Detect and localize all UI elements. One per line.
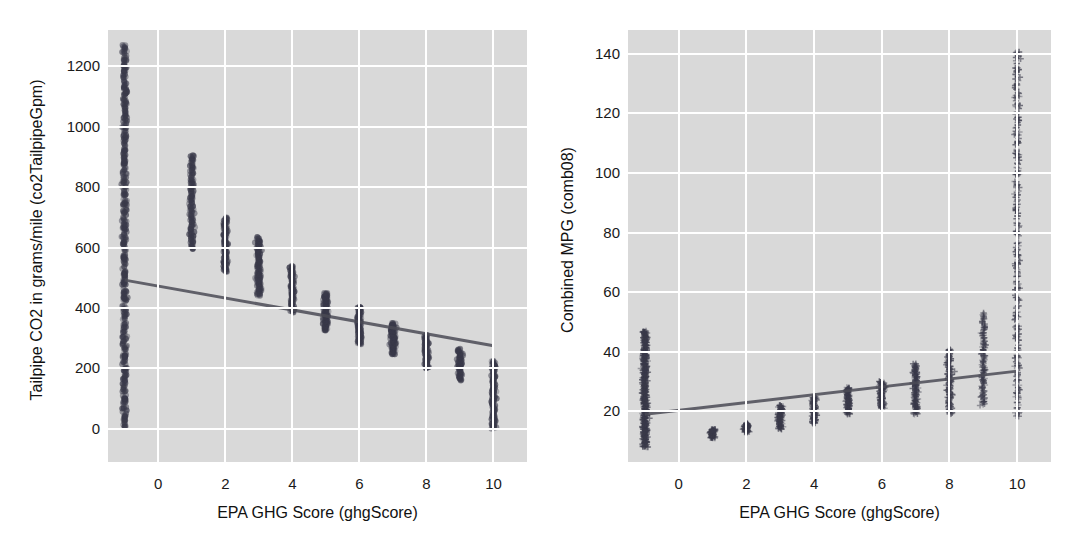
y-tick-label: 200 bbox=[46, 360, 100, 375]
figure-canvas: 020040060080010001200 0246810 Tailpipe C… bbox=[0, 0, 1077, 543]
y-tick-label: 400 bbox=[46, 300, 100, 315]
gridline-horizontal bbox=[628, 53, 1051, 55]
x-tick-label: 4 bbox=[789, 476, 839, 491]
x-tick-label: 0 bbox=[133, 476, 183, 491]
x-tick-label: 10 bbox=[468, 476, 518, 491]
y-tick-label: 800 bbox=[46, 179, 100, 194]
gridline-horizontal bbox=[628, 291, 1051, 293]
x-tick-label: 10 bbox=[992, 476, 1042, 491]
gridline-vertical bbox=[157, 30, 159, 462]
gridline-horizontal bbox=[108, 428, 527, 430]
gridline-horizontal bbox=[108, 65, 527, 67]
gridline-horizontal bbox=[628, 172, 1051, 174]
gridline-horizontal bbox=[108, 126, 527, 128]
co2-y-axis-title: Tailpipe CO2 in grams/mile (co2TailpipeG… bbox=[28, 24, 46, 456]
gridline-vertical bbox=[224, 30, 226, 462]
gridline-vertical bbox=[291, 30, 293, 462]
y-tick-label: 0 bbox=[46, 421, 100, 436]
gridline-horizontal bbox=[628, 410, 1051, 412]
mpg-y-axis-title: Combined MPG (comb08) bbox=[559, 24, 577, 456]
mpg-x-axis-title: EPA GHG Score (ghgScore) bbox=[628, 504, 1051, 522]
gridline-vertical bbox=[358, 30, 360, 462]
gridline-vertical bbox=[948, 30, 950, 462]
mpg-panel: 20406080100120140 0246810 Combined MPG (… bbox=[537, 0, 1077, 543]
gridline-horizontal bbox=[108, 367, 527, 369]
gridline-vertical bbox=[1016, 30, 1018, 462]
mpg-regression-line bbox=[628, 30, 1051, 462]
gridline-vertical bbox=[881, 30, 883, 462]
co2-x-axis-title: EPA GHG Score (ghgScore) bbox=[108, 504, 527, 522]
x-tick-label: 8 bbox=[924, 476, 974, 491]
y-tick-label: 600 bbox=[46, 240, 100, 255]
y-tick-label: 1200 bbox=[46, 58, 100, 73]
gridline-horizontal bbox=[628, 232, 1051, 234]
x-tick-label: 8 bbox=[401, 476, 451, 491]
co2-panel: 020040060080010001200 0246810 Tailpipe C… bbox=[0, 0, 537, 543]
x-tick-label: 2 bbox=[721, 476, 771, 491]
co2-plot-area bbox=[108, 30, 527, 462]
x-tick-label: 6 bbox=[334, 476, 384, 491]
gridline-vertical bbox=[425, 30, 427, 462]
x-tick-label: 6 bbox=[857, 476, 907, 491]
gridline-horizontal bbox=[108, 247, 527, 249]
gridline-vertical bbox=[745, 30, 747, 462]
gridline-horizontal bbox=[108, 186, 527, 188]
gridline-horizontal bbox=[628, 112, 1051, 114]
gridline-vertical bbox=[678, 30, 680, 462]
mpg-plot-area bbox=[628, 30, 1051, 462]
x-tick-label: 4 bbox=[267, 476, 317, 491]
y-tick-label: 1000 bbox=[46, 119, 100, 134]
gridline-vertical bbox=[492, 30, 494, 462]
gridline-horizontal bbox=[108, 307, 527, 309]
x-tick-label: 0 bbox=[654, 476, 704, 491]
x-tick-label: 2 bbox=[200, 476, 250, 491]
gridline-horizontal bbox=[628, 351, 1051, 353]
gridline-vertical bbox=[813, 30, 815, 462]
